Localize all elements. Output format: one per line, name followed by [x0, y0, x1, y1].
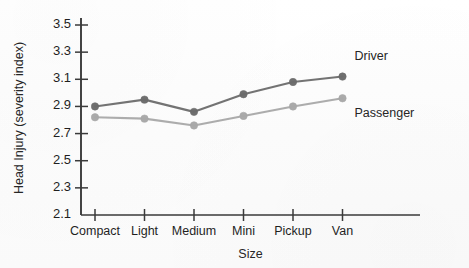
- x-tick-label: Compact: [70, 224, 120, 238]
- data-point-passenger-medium: [190, 122, 197, 129]
- x-tick-label: Van: [332, 224, 353, 238]
- y-tick-label: 3.1: [35, 70, 71, 85]
- x-tick-label: Light: [131, 224, 158, 238]
- x-tick-label: Pickup: [274, 224, 312, 238]
- series-label-passenger: Passenger: [355, 106, 415, 120]
- data-point-passenger-compact: [91, 114, 98, 121]
- data-point-driver-mini: [240, 91, 247, 98]
- y-tick-label: 2.5: [35, 152, 71, 167]
- chart-screenshot: Head Injury (severity index) 3.53.33.12.…: [0, 0, 469, 268]
- y-tick-label: 3.5: [35, 16, 71, 31]
- data-point-passenger-van: [339, 95, 346, 102]
- x-tick-label: Mini: [232, 224, 255, 238]
- data-point-passenger-mini: [240, 112, 247, 119]
- x-tick-label: Medium: [172, 224, 216, 238]
- data-point-driver-van: [339, 73, 346, 80]
- y-tick-label: 2.3: [35, 179, 71, 194]
- data-point-driver-compact: [91, 103, 98, 110]
- data-point-driver-light: [141, 96, 148, 103]
- chart-series: [91, 73, 346, 129]
- series-line-driver: [95, 77, 343, 112]
- series-label-driver: Driver: [355, 49, 388, 63]
- data-point-passenger-pickup: [289, 103, 296, 110]
- y-tick-label: 2.1: [35, 206, 71, 221]
- data-point-driver-pickup: [289, 78, 296, 85]
- x-axis-title: Size: [211, 247, 291, 261]
- y-tick-label: 2.9: [35, 97, 71, 112]
- y-axis-title: Head Injury (severity index): [12, 42, 26, 194]
- data-point-driver-medium: [190, 108, 197, 115]
- y-tick-label: 2.7: [35, 125, 71, 140]
- y-axis-title-wrapper: Head Injury (severity index): [6, 0, 32, 240]
- data-point-passenger-light: [141, 115, 148, 122]
- y-tick-label: 3.3: [35, 43, 71, 58]
